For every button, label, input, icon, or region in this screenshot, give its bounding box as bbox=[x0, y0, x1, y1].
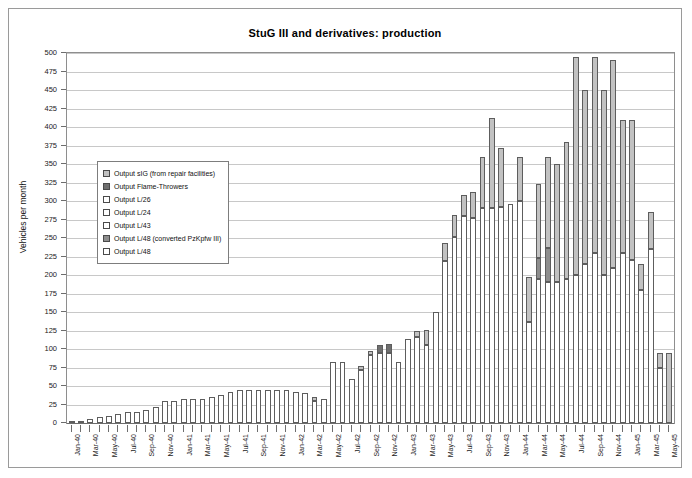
bar-feb-44[interactable] bbox=[526, 277, 532, 423]
legend-item-0[interactable]: Output sIG (from repair facilities) bbox=[103, 167, 221, 180]
bar-jan-42[interactable] bbox=[293, 392, 299, 423]
y-axis-tick-label: 125 bbox=[44, 325, 57, 334]
bar-mar-43[interactable] bbox=[424, 330, 430, 423]
bar-dec-44[interactable] bbox=[620, 120, 626, 423]
bar-jun-44[interactable] bbox=[564, 142, 570, 423]
bar-segment-l48 bbox=[78, 421, 84, 423]
bar-jun-40[interactable] bbox=[115, 414, 121, 423]
bar-segment-l48 bbox=[171, 401, 177, 423]
bar-nov-41[interactable] bbox=[274, 390, 280, 423]
legend-item-5[interactable]: Output L/48 (converted PzKpfw III) bbox=[103, 232, 221, 245]
x-axis-tick-mark bbox=[650, 425, 651, 432]
bar-jul-43[interactable] bbox=[461, 195, 467, 423]
bar-dec-40[interactable] bbox=[171, 401, 177, 423]
bar-dec-41[interactable] bbox=[284, 390, 290, 423]
bar-segment-sig bbox=[358, 366, 364, 370]
bar-aug-43[interactable] bbox=[470, 192, 476, 423]
bar-jan-45[interactable] bbox=[629, 120, 635, 423]
bar-feb-42[interactable] bbox=[302, 393, 308, 423]
bar-oct-44[interactable] bbox=[601, 90, 607, 423]
x-axis-tick-mark bbox=[323, 425, 324, 432]
bar-jul-41[interactable] bbox=[237, 390, 243, 423]
y-axis-tick-label: 375 bbox=[44, 140, 57, 149]
x-axis-tick-label: Sep-43 bbox=[485, 434, 492, 457]
bar-segment-sig bbox=[610, 60, 616, 267]
bar-segment-sig bbox=[536, 184, 542, 258]
bar-nov-42[interactable] bbox=[386, 344, 392, 423]
legend-item-4[interactable]: Output L/43 bbox=[103, 219, 221, 232]
bar-may-45[interactable] bbox=[666, 353, 672, 423]
bar-jan-44[interactable] bbox=[517, 157, 523, 423]
bar-nov-40[interactable] bbox=[162, 401, 168, 423]
bar-segment-l48 bbox=[442, 261, 448, 423]
bar-segment-l48 bbox=[218, 395, 224, 423]
bar-sep-43[interactable] bbox=[480, 157, 486, 423]
bar-jul-40[interactable] bbox=[125, 412, 131, 423]
legend-item-6[interactable]: Output L/48 bbox=[103, 245, 221, 258]
bar-segment-l48 bbox=[526, 322, 532, 423]
bar-nov-44[interactable] bbox=[610, 60, 616, 423]
bar-jan-41[interactable] bbox=[181, 399, 187, 423]
bar-mar-44[interactable] bbox=[536, 184, 542, 423]
bar-jan-40[interactable] bbox=[69, 422, 75, 423]
bar-jul-44[interactable] bbox=[573, 57, 579, 423]
bar-segment-l48 bbox=[405, 339, 411, 423]
bar-jul-42[interactable] bbox=[349, 379, 355, 423]
y-axis-tick-label: 175 bbox=[44, 288, 57, 297]
bar-aug-40[interactable] bbox=[134, 412, 140, 423]
bar-segment-sig bbox=[452, 215, 458, 237]
bar-apr-40[interactable] bbox=[97, 417, 103, 423]
bar-mar-45[interactable] bbox=[648, 212, 654, 423]
x-axis-tick-mark bbox=[538, 425, 539, 432]
bar-aug-42[interactable] bbox=[358, 366, 364, 423]
bar-nov-43[interactable] bbox=[498, 148, 504, 423]
x-axis-tick-mark bbox=[155, 425, 156, 432]
x-axis-tick-mark bbox=[594, 425, 595, 432]
legend-item-1[interactable]: Output Flame-Throwers bbox=[103, 180, 221, 193]
bar-may-41[interactable] bbox=[218, 395, 224, 423]
x-axis-tick-label: Sep-42 bbox=[373, 434, 380, 457]
bar-segment-l48 bbox=[498, 207, 504, 423]
bar-feb-43[interactable] bbox=[414, 331, 420, 423]
bar-sep-40[interactable] bbox=[143, 410, 149, 423]
bar-feb-41[interactable] bbox=[190, 399, 196, 423]
bar-may-43[interactable] bbox=[442, 243, 448, 423]
bar-jan-43[interactable] bbox=[405, 339, 411, 423]
bar-oct-43[interactable] bbox=[489, 118, 495, 423]
bar-aug-41[interactable] bbox=[246, 390, 252, 423]
bar-may-40[interactable] bbox=[106, 416, 112, 423]
bar-jun-43[interactable] bbox=[452, 215, 458, 423]
bar-sep-42[interactable] bbox=[368, 351, 374, 423]
bar-sep-44[interactable] bbox=[592, 57, 598, 423]
legend-item-2[interactable]: Output L/26 bbox=[103, 193, 221, 206]
bar-aug-44[interactable] bbox=[582, 90, 588, 423]
bar-apr-42[interactable] bbox=[321, 399, 327, 423]
y-axis-tick-label: 25 bbox=[49, 399, 57, 408]
bar-dec-42[interactable] bbox=[396, 362, 402, 423]
bar-oct-40[interactable] bbox=[153, 407, 159, 423]
bar-mar-42[interactable] bbox=[312, 397, 318, 423]
bar-jun-42[interactable] bbox=[340, 362, 346, 423]
bar-apr-45[interactable] bbox=[657, 353, 663, 423]
bar-may-42[interactable] bbox=[330, 362, 336, 423]
x-axis-tick-label: Nov-40 bbox=[167, 434, 174, 457]
bar-mar-41[interactable] bbox=[200, 399, 206, 423]
bar-jun-41[interactable] bbox=[228, 392, 234, 423]
bar-segment-l48 bbox=[200, 399, 206, 423]
bar-may-44[interactable] bbox=[554, 164, 560, 423]
bar-sep-41[interactable] bbox=[256, 390, 262, 423]
bar-segment-sig bbox=[498, 148, 504, 207]
bar-feb-45[interactable] bbox=[638, 264, 644, 423]
bar-feb-40[interactable] bbox=[78, 421, 84, 423]
bar-dec-43[interactable] bbox=[508, 204, 514, 423]
bar-segment-sig bbox=[564, 142, 570, 279]
x-axis: Jan-40Mar-40May-40Jul-40Sep-40Nov-40Jan-… bbox=[66, 425, 675, 478]
legend-item-3[interactable]: Output L/24 bbox=[103, 206, 221, 219]
bar-apr-41[interactable] bbox=[209, 397, 215, 423]
bar-oct-42[interactable] bbox=[377, 345, 383, 423]
bar-oct-41[interactable] bbox=[265, 390, 271, 423]
bar-apr-44[interactable] bbox=[545, 157, 551, 423]
bar-apr-43[interactable] bbox=[433, 312, 439, 423]
bar-segment-l48 bbox=[256, 390, 262, 423]
bar-mar-40[interactable] bbox=[87, 419, 93, 423]
